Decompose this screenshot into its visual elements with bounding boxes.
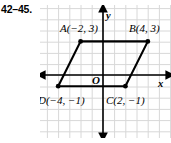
coordinate-plane-figure: 42–45. [0, 0, 171, 143]
vertex-d-point [56, 84, 61, 89]
vertex-d-label: D(−4, −1) [40, 94, 85, 107]
vertex-b-label: B(4, 3) [129, 22, 160, 35]
vertex-a-point [78, 39, 83, 44]
y-axis-label: y [104, 10, 111, 21]
grid-panel: A(−2, 3) B(4, 3) C(2, −1) D(−4, −1) O x … [40, 5, 171, 138]
origin-label: O [92, 74, 100, 86]
vertex-b-point [145, 39, 150, 44]
problem-number-label: 42–45. [1, 3, 32, 15]
coordinate-plot-svg: A(−2, 3) B(4, 3) C(2, −1) D(−4, −1) O x … [40, 5, 171, 138]
vertex-c-point [123, 84, 128, 89]
vertex-c-label: C(2, −1) [106, 94, 145, 107]
vertex-a-label: A(−2, 3) [59, 22, 98, 35]
x-axis-label: x [157, 78, 163, 89]
